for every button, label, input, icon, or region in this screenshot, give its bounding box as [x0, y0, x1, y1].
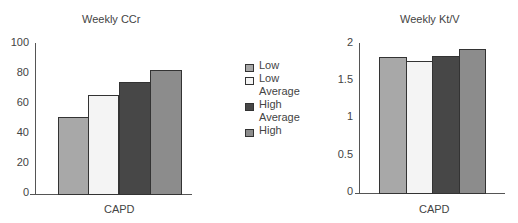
y-tick: 100	[1, 36, 29, 48]
bar-ccr-low	[58, 117, 89, 195]
legend-swatch-low	[245, 64, 254, 72]
y-tick: 2	[325, 36, 353, 48]
bar-ktv-low	[379, 57, 407, 194]
y-tick: 40	[1, 126, 29, 138]
bar-ktv-low-average	[406, 61, 433, 194]
y-tick: 80	[1, 66, 29, 78]
y-tick: 0.5	[325, 148, 353, 160]
bar-ccr-low-average	[88, 95, 119, 195]
legend-label-low-average: Low Average	[259, 72, 304, 98]
bar-ktv-high	[459, 49, 486, 194]
x-label-ccr: CAPD	[104, 203, 135, 215]
legend-swatch-high	[245, 129, 254, 137]
legend-label-high-average: High Average	[259, 98, 304, 124]
y-tick: 1.5	[325, 73, 353, 85]
x-label-ktv: CAPD	[419, 203, 450, 215]
y-tick: 20	[1, 156, 29, 168]
bar-ccr-high-average	[119, 82, 151, 195]
y-tick: 1	[325, 110, 353, 122]
chart-title-ktv: Weekly Kt/V	[400, 13, 460, 25]
y-tick: 0	[1, 186, 29, 198]
y-tick: 60	[1, 96, 29, 108]
bar-ktv-high-average	[432, 56, 460, 194]
y-tick: 0	[325, 185, 353, 197]
legend-swatch-high-average	[245, 103, 254, 111]
y-axis-ccr	[35, 43, 36, 195]
bar-ccr-high	[150, 70, 182, 195]
chart-title-ccr: Weekly CCr	[82, 13, 140, 25]
legend-label-high: High	[259, 124, 329, 137]
legend-swatch-low-average	[245, 77, 254, 85]
legend-label-low: Low	[259, 59, 329, 72]
y-axis-ktv	[359, 43, 360, 194]
chart-figure: Weekly CCr 0 20 40 60 80 100 CAPD Low Lo…	[0, 0, 518, 223]
